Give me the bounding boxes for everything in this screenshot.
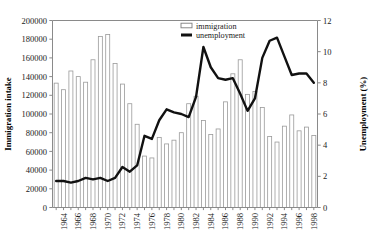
right-axis-tick-label: 8 bbox=[323, 78, 327, 88]
immigration-bar bbox=[143, 156, 147, 207]
x-tick-label-text: 1994 bbox=[279, 212, 289, 230]
right-axis-tick-label: 0 bbox=[323, 203, 327, 213]
immigration-unemployment-chart: 0200004000060000800001000001200001400001… bbox=[0, 0, 375, 250]
x-tick-label-text: 1982 bbox=[191, 213, 201, 230]
immigration-bar bbox=[157, 137, 161, 207]
immigration-bar bbox=[282, 126, 286, 207]
x-tick-label: 1986 bbox=[220, 213, 230, 230]
x-tick-label: 1972 bbox=[117, 213, 127, 230]
x-tick-label: 1964 bbox=[59, 212, 69, 230]
x-tick-label: 1968 bbox=[88, 213, 98, 230]
immigration-bar bbox=[76, 77, 80, 208]
bottom-axis bbox=[53, 208, 318, 211]
left-axis-tick-label: 0 bbox=[43, 203, 47, 213]
immigration-bar bbox=[187, 104, 191, 208]
right-axis-tick-label: 12 bbox=[323, 16, 332, 26]
x-tick-label-text: 1972 bbox=[117, 213, 127, 230]
immigration-bar bbox=[128, 104, 132, 208]
x-tick-label-text: 1992 bbox=[265, 213, 275, 230]
right-axis-title-text: Unemployment (%) bbox=[358, 77, 368, 152]
legend-immigration-swatch bbox=[181, 23, 192, 28]
left-axis-tick-label: 40000 bbox=[26, 165, 47, 175]
immigration-bar bbox=[231, 74, 235, 208]
right-axis-tick-label: 4 bbox=[323, 140, 328, 150]
x-tick-label-text: 1996 bbox=[294, 213, 304, 230]
x-tick-label-text: 1988 bbox=[235, 213, 245, 230]
x-tick-label-text: 1998 bbox=[309, 213, 319, 230]
right-axis-tick-label: 2 bbox=[323, 171, 327, 181]
immigration-bar bbox=[238, 60, 242, 208]
x-tick-label: 1994 bbox=[279, 212, 289, 230]
x-tick-label-text: 1976 bbox=[147, 213, 157, 230]
x-tick-label: 1984 bbox=[206, 212, 216, 230]
x-tick-label: 1990 bbox=[250, 213, 260, 230]
immigration-bar bbox=[290, 115, 294, 208]
left-axis-tick-label: 180000 bbox=[22, 34, 48, 44]
immigration-bar bbox=[268, 136, 272, 207]
x-tick-label-text: 1980 bbox=[176, 213, 186, 230]
x-tick-label-text: 1964 bbox=[59, 212, 69, 230]
x-tick-label: 1982 bbox=[191, 213, 201, 230]
immigration-bar bbox=[91, 60, 95, 208]
right-axis-title: Unemployment (%) bbox=[358, 77, 368, 152]
immigration-bar bbox=[113, 64, 117, 208]
immigration-bar bbox=[297, 131, 301, 208]
x-tick-label-text: 1990 bbox=[250, 213, 260, 230]
left-axis-tick-label: 80000 bbox=[26, 128, 47, 138]
immigration-bar bbox=[201, 121, 205, 208]
immigration-bar bbox=[84, 82, 88, 207]
immigration-bar bbox=[98, 36, 102, 207]
immigration-bar bbox=[69, 71, 73, 208]
immigration-bar bbox=[275, 142, 279, 207]
legend-item-label: unemployment bbox=[196, 31, 246, 40]
x-tick-label: 1974 bbox=[132, 212, 142, 230]
immigration-bar bbox=[312, 136, 316, 208]
left-axis-tick-label: 120000 bbox=[22, 90, 48, 100]
x-tick-label: 1998 bbox=[309, 213, 319, 230]
left-axis-tick-label: 20000 bbox=[26, 184, 47, 194]
x-tick-label: 1978 bbox=[162, 213, 172, 230]
x-tick-label-text: 1966 bbox=[73, 213, 83, 230]
left-axis-title: Immigration intake bbox=[3, 77, 13, 151]
immigration-bar bbox=[209, 135, 213, 208]
x-tick-label: 1988 bbox=[235, 213, 245, 230]
legend-item-label: immigration bbox=[196, 22, 236, 31]
immigration-bar bbox=[172, 140, 176, 207]
immigration-bar bbox=[150, 158, 154, 208]
x-tick-label: 1992 bbox=[265, 213, 275, 230]
x-tick-label-text: 1974 bbox=[132, 212, 142, 230]
immigration-bar bbox=[216, 129, 220, 208]
x-tick-label-text: 1968 bbox=[88, 213, 98, 230]
left-axis: 0200004000060000800001000001200001400001… bbox=[22, 16, 53, 213]
immigration-bar bbox=[253, 92, 257, 208]
right-axis-tick-label: 10 bbox=[323, 47, 332, 57]
immigration-bar bbox=[62, 90, 66, 208]
immigration-bar bbox=[179, 133, 183, 208]
x-tick-label-text: 1970 bbox=[103, 213, 113, 230]
x-tick-label: 1970 bbox=[103, 213, 113, 230]
left-axis-tick-label: 60000 bbox=[26, 147, 47, 157]
x-tick-label: 1976 bbox=[147, 213, 157, 230]
x-tick-label-text: 1986 bbox=[220, 213, 230, 230]
x-tick-label-text: 1984 bbox=[206, 212, 216, 230]
x-tick-label-text: 1978 bbox=[162, 213, 172, 230]
x-tick-labels: 1964196619681970197219741976197819801982… bbox=[59, 212, 319, 230]
x-tick-label: 1980 bbox=[176, 213, 186, 230]
immigration-bar bbox=[54, 83, 58, 207]
immigration-bar bbox=[304, 127, 308, 207]
x-tick-label: 1966 bbox=[73, 213, 83, 230]
immigration-bar bbox=[165, 144, 169, 208]
chart-legend: immigrationunemployment bbox=[181, 22, 246, 41]
right-axis-tick-label: 6 bbox=[323, 109, 327, 119]
x-tick-label: 1996 bbox=[294, 213, 304, 230]
immigration-bar bbox=[223, 102, 227, 208]
immigration-bar bbox=[120, 84, 124, 207]
immigration-bar bbox=[194, 96, 198, 207]
left-axis-title-text: Immigration intake bbox=[3, 77, 13, 151]
bar-series bbox=[54, 35, 316, 208]
left-axis-tick-label: 200000 bbox=[22, 16, 48, 26]
chart-canvas: 0200004000060000800001000001200001400001… bbox=[0, 0, 375, 250]
left-axis-tick-label: 160000 bbox=[22, 53, 48, 63]
right-axis: 024681012 bbox=[318, 16, 332, 213]
immigration-bar bbox=[260, 107, 264, 207]
